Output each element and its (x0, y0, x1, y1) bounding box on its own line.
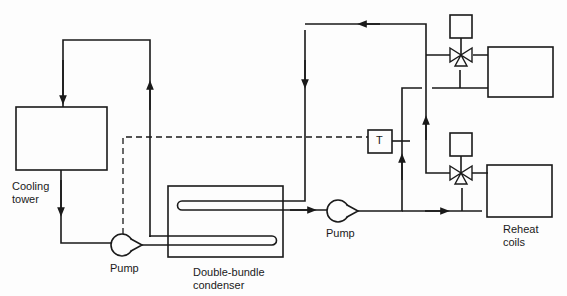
tower-supply-pipe (61, 170, 111, 243)
reheat-coils-label: Reheat coils (503, 223, 538, 249)
cooling-tower (16, 107, 107, 170)
pump-2-icon (327, 200, 349, 222)
condenser-label: Double-bundle condenser (193, 266, 265, 292)
valve-actuator-upper (450, 15, 472, 38)
schematic-canvas (0, 0, 567, 296)
cooling-tower-label: Cooling tower (12, 180, 49, 206)
lower-bundle-tube (142, 236, 277, 245)
cooling-tower-label-line2: tower (12, 193, 49, 206)
upper-bundle-tube (178, 30, 327, 210)
condenser-label-line1: Double-bundle (193, 266, 265, 279)
reheat-coil-upper (488, 47, 553, 97)
valve-actuator-lower (450, 133, 472, 156)
reheat-coils-label-line2: coils (503, 236, 538, 249)
pump-1-label: Pump (110, 262, 139, 275)
hot-water-return (305, 24, 426, 150)
reheat-coil-lower (487, 165, 552, 217)
condenser-shell (168, 186, 283, 257)
pump-2-label: Pump (326, 227, 355, 240)
reheat-coils-label-line1: Reheat (503, 223, 538, 236)
pump-1-icon (111, 234, 133, 256)
thermostat-label: T (376, 134, 383, 147)
condenser-label-line2: condenser (193, 279, 265, 292)
cooling-tower-label-line1: Cooling (12, 180, 49, 193)
